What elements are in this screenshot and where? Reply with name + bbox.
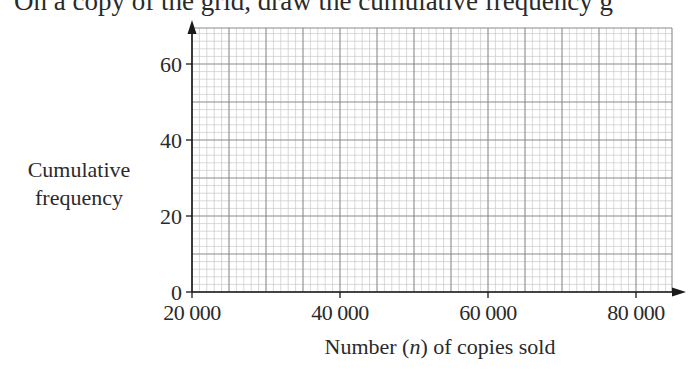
y-axis-label-line-2: frequency — [14, 184, 144, 212]
minor-grid-lines — [192, 28, 672, 292]
x-axis-label-suffix: ) of copies sold — [420, 334, 555, 359]
x-tick-label-40000: 40 000 — [290, 300, 390, 326]
x-tick-label-60000: 60 000 — [438, 300, 538, 326]
x-axis-label-variable: n — [409, 334, 420, 359]
y-tick-label-20: 20 — [142, 204, 182, 230]
major-grid-lines — [192, 28, 672, 292]
x-tick-label-20000: 20 000 — [142, 300, 242, 326]
y-tick-label-60: 60 — [142, 52, 182, 78]
x-axis-label-prefix: Number ( — [325, 334, 410, 359]
y-axis-label: Cumulative frequency — [14, 156, 144, 212]
x-tick-label-80000: 80 000 — [586, 300, 686, 326]
y-tick-label-40: 40 — [142, 128, 182, 154]
y-axis-label-line-1: Cumulative — [14, 156, 144, 184]
x-axis-label: Number (n) of copies sold — [280, 334, 600, 360]
